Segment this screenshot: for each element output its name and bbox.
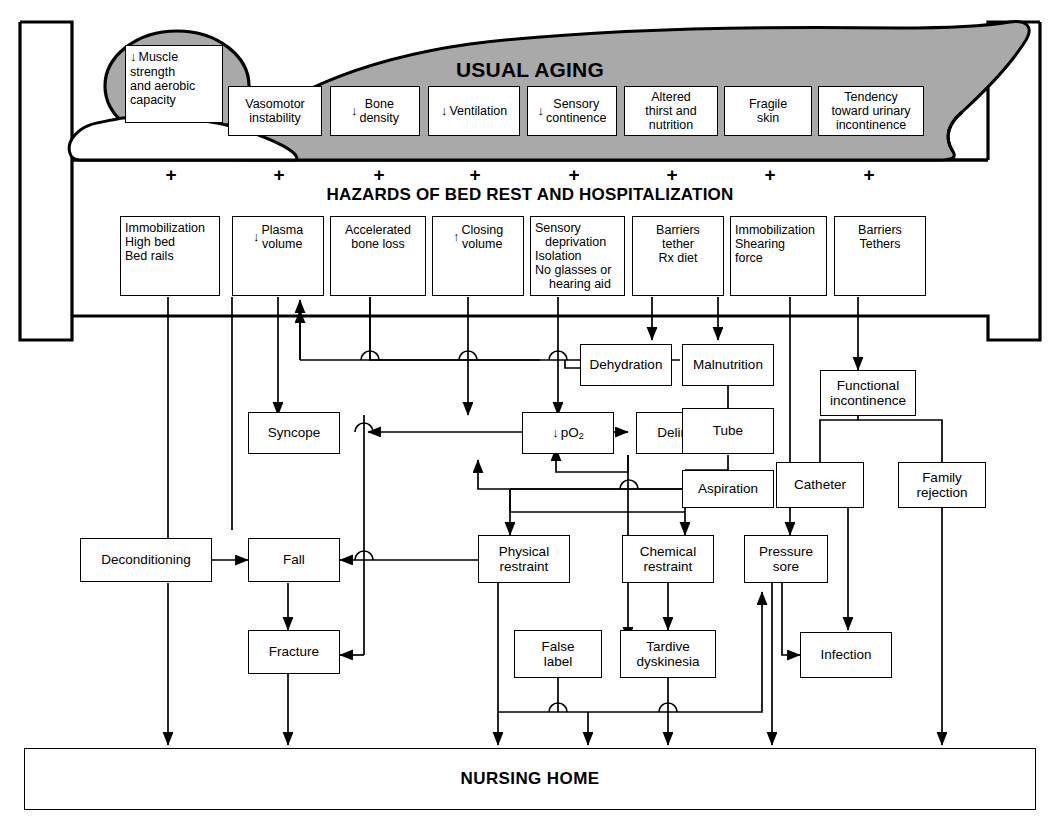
hazard-label: force bbox=[735, 251, 815, 265]
node-tube: Tube bbox=[682, 408, 774, 454]
plus-sign: + bbox=[664, 165, 680, 184]
hazard-box-barriers-tether-rx: Barriers tether Rx diet bbox=[632, 216, 724, 296]
node-syncope: Syncope bbox=[248, 412, 340, 454]
node-label: Fall bbox=[283, 552, 305, 567]
aging-label: Vasomotor bbox=[245, 97, 305, 111]
aging-label: Sensory bbox=[546, 97, 606, 111]
hazard-box-closing-volume: ↑ Closing volume bbox=[432, 216, 524, 296]
node-malnutrition: Malnutrition bbox=[682, 344, 774, 386]
node-label: Catheter bbox=[794, 477, 846, 492]
hazard-label: tether bbox=[656, 237, 700, 251]
nursing-home-label: NURSING HOME bbox=[461, 769, 600, 789]
hazard-box-barriers-tethers: Barriers Tethers bbox=[834, 216, 926, 296]
node-aspiration: Aspiration bbox=[682, 470, 774, 508]
hazard-label: Bed rails bbox=[125, 249, 205, 263]
aging-label: toward urinary bbox=[831, 104, 910, 118]
down-arrow-icon: ↓ bbox=[441, 104, 448, 119]
hazard-label: hearing aid bbox=[535, 277, 611, 291]
hazard-label: Sensory bbox=[535, 221, 611, 235]
down-arrow-icon: ↓ bbox=[351, 104, 358, 119]
hazard-box-sensory-deprivation: Sensory deprivation Isolation No glasses… bbox=[530, 216, 625, 296]
hazard-box-immobilization-bed: Immobilization High bed Bed rails bbox=[120, 216, 220, 296]
node-label: Malnutrition bbox=[693, 357, 763, 372]
hazard-label: Closing bbox=[461, 223, 503, 237]
hazards-title: HAZARDS OF BED REST AND HOSPITALIZATION bbox=[230, 182, 830, 208]
node-label: sore bbox=[759, 559, 813, 574]
node-label: Dehydration bbox=[590, 357, 663, 372]
aging-label: Ventilation bbox=[449, 104, 507, 118]
down-arrow-icon: ↓ bbox=[130, 50, 137, 65]
hazard-label: High bed bbox=[125, 235, 205, 249]
node-label: Syncope bbox=[268, 425, 321, 440]
node-label: label bbox=[541, 654, 574, 669]
node-label-subscript: 2 bbox=[579, 431, 584, 441]
hazard-label: No glasses or bbox=[535, 263, 611, 277]
node-dehydration: Dehydration bbox=[580, 344, 672, 386]
node-label: dyskinesia bbox=[636, 654, 699, 669]
aging-label: strength bbox=[130, 65, 195, 79]
hazard-label: bone loss bbox=[345, 237, 411, 251]
hazard-label: Plasma bbox=[261, 223, 303, 237]
node-label: Functional bbox=[830, 378, 906, 393]
aging-label: incontinence bbox=[831, 118, 910, 132]
aging-box-sensory-continence: ↓ Sensory continence bbox=[527, 86, 617, 136]
nursing-home-outcome: NURSING HOME bbox=[24, 748, 1036, 810]
hazard-label: deprivation bbox=[535, 235, 611, 249]
plus-sign: + bbox=[566, 165, 582, 184]
flowchart-figure: USUAL AGING HAZARDS OF BED REST AND HOSP… bbox=[0, 0, 1061, 828]
down-arrow-icon: ↓ bbox=[552, 426, 559, 441]
aging-box-bone-density: ↓ Bone density bbox=[330, 86, 420, 136]
node-label: Deconditioning bbox=[101, 552, 190, 567]
hazard-label: Barriers bbox=[656, 223, 700, 237]
hazard-label: Immobilization bbox=[125, 221, 205, 235]
aging-label: instability bbox=[245, 111, 305, 125]
hazard-label: volume bbox=[261, 237, 303, 251]
aging-label: capacity bbox=[130, 93, 195, 107]
node-fracture: Fracture bbox=[248, 630, 340, 674]
node-label: Tube bbox=[713, 423, 743, 438]
node-physical-restraint: Physical restraint bbox=[478, 535, 570, 583]
hazard-label: Isolation bbox=[535, 249, 611, 263]
node-label: rejection bbox=[916, 485, 967, 500]
aging-label: density bbox=[359, 111, 399, 125]
aging-label: Bone bbox=[359, 97, 399, 111]
node-label: Fracture bbox=[269, 644, 319, 659]
aging-box-fragile-skin: Fragile skin bbox=[724, 86, 812, 136]
node-label: Physical bbox=[499, 544, 549, 559]
aging-label: skin bbox=[749, 111, 787, 125]
up-arrow-icon: ↑ bbox=[453, 230, 460, 245]
hazard-label: Tethers bbox=[858, 237, 902, 251]
node-label: Chemical bbox=[640, 544, 696, 559]
hazard-box-accelerated-bone-loss: Accelerated bone loss bbox=[330, 216, 426, 296]
plus-sign: + bbox=[861, 165, 877, 184]
aging-label: thirst and bbox=[645, 104, 696, 118]
aging-box-muscle: ↓ Muscle strength and aerobic capacity bbox=[125, 45, 223, 123]
plus-sign: + bbox=[163, 165, 179, 184]
hazard-label: Accelerated bbox=[345, 223, 411, 237]
aging-label: Tendency bbox=[831, 90, 910, 104]
node-label: Infection bbox=[820, 647, 871, 662]
node-infection: Infection bbox=[800, 632, 892, 678]
node-fall: Fall bbox=[248, 538, 340, 582]
node-chemical-restraint: Chemical restraint bbox=[622, 535, 714, 583]
usual-aging-title: USUAL AGING bbox=[380, 56, 680, 84]
node-label: Tardive bbox=[636, 639, 699, 654]
node-label: restraint bbox=[499, 559, 549, 574]
node-label: Family bbox=[916, 470, 967, 485]
aging-label: Muscle bbox=[139, 50, 179, 64]
node-label: Pressure bbox=[759, 544, 813, 559]
node-catheter: Catheter bbox=[776, 462, 864, 508]
down-arrow-icon: ↓ bbox=[253, 230, 260, 245]
node-label: restraint bbox=[640, 559, 696, 574]
node-family-rejection: Family rejection bbox=[898, 462, 986, 508]
node-functional-incontinence: Functional incontinence bbox=[820, 370, 916, 416]
hazard-label: Barriers bbox=[858, 223, 902, 237]
aging-label: and aerobic bbox=[130, 79, 195, 93]
node-label: Aspiration bbox=[698, 481, 758, 496]
plus-sign: + bbox=[467, 165, 483, 184]
node-tardive-dyskinesia: Tardive dyskinesia bbox=[620, 630, 716, 678]
aging-label: Fragile bbox=[749, 97, 787, 111]
aging-label: nutrition bbox=[645, 118, 696, 132]
hazard-box-plasma-volume: ↓ Plasma volume bbox=[232, 216, 324, 296]
node-deconditioning: Deconditioning bbox=[80, 538, 212, 582]
